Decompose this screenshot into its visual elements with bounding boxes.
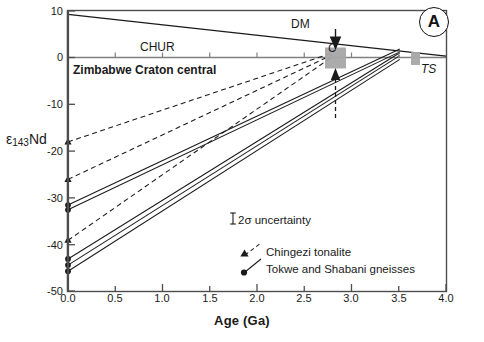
craton-label: Zimbabwe Craton central (73, 63, 216, 77)
legend-chingezi-label: Chingezi tonalite (266, 246, 351, 258)
y-tick-label-5: -40 (29, 239, 63, 251)
y-tick-label-2: -10 (29, 98, 63, 110)
legend-uncertainty-label: 2σ uncertainty (238, 214, 311, 226)
x-tick-label-8: 4.0 (426, 292, 466, 304)
convergence-square-ts (411, 52, 420, 65)
y-tick-label-1: 0 (29, 51, 63, 63)
nd-isotope-evolution-chart (0, 0, 484, 342)
x-tick-label-6: 3.0 (331, 292, 371, 304)
y-tick-label-3: -20 (29, 145, 63, 157)
convergence-ts-label: TS (421, 62, 436, 76)
dm-label: DM (291, 17, 310, 31)
chur-label: CHUR (140, 40, 175, 54)
y-axis-title-subscript: 143 (12, 137, 29, 148)
convergence-c-label: C (328, 41, 337, 55)
x-tick-label-2: 1.0 (142, 292, 182, 304)
y-tick-label-0: 10 (29, 5, 63, 17)
y-tick-label-6: -50 (29, 285, 63, 297)
legend-tokwe-label: Tokwe and Shabani gneisses (266, 263, 415, 275)
x-tick-label-3: 1.5 (190, 292, 230, 304)
x-tick-label-5: 2.5 (284, 292, 324, 304)
panel-label-a: A (419, 7, 449, 37)
x-axis-title: Age (Ga) (0, 313, 484, 328)
x-tick-label-4: 2.0 (237, 292, 277, 304)
legend-tokwe-circle-marker (241, 269, 247, 275)
x-tick-label-7: 3.5 (379, 292, 419, 304)
x-tick-label-1: 0.5 (95, 292, 135, 304)
y-tick-label-4: -30 (29, 192, 63, 204)
